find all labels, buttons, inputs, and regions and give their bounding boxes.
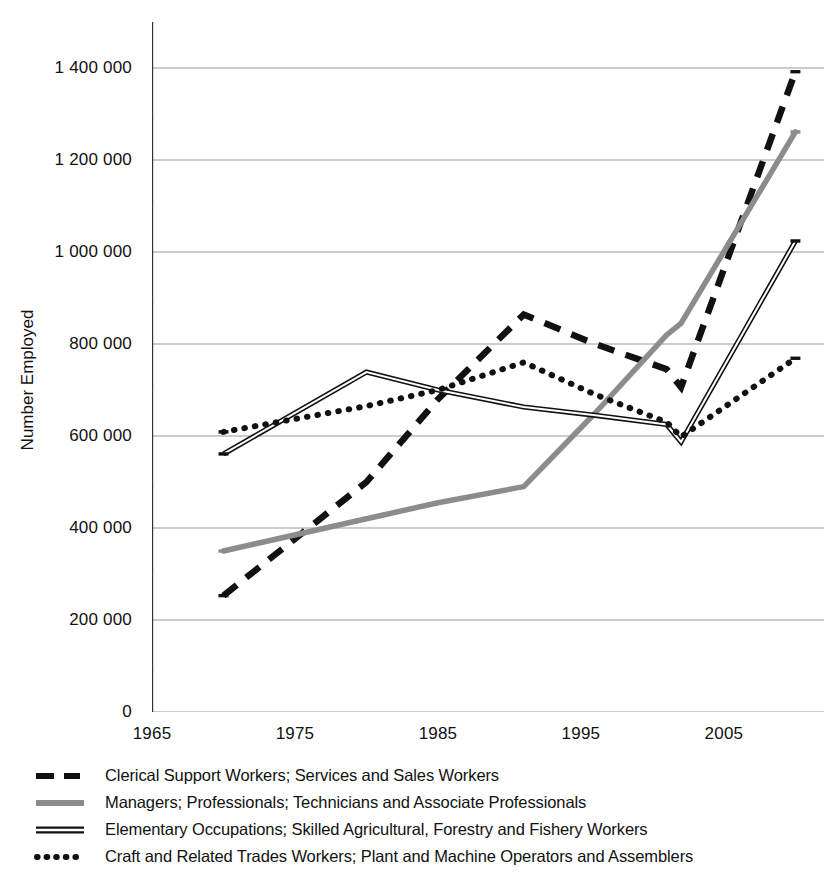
legend-item-label: Elementary Occupations; Skilled Agricult… bbox=[105, 820, 648, 839]
x-axis-tick-label: 1995 bbox=[562, 724, 601, 744]
y-axis-tick-label: 1 000 000 bbox=[55, 242, 132, 262]
legend-item[interactable]: Clerical Support Workers; Services and S… bbox=[0, 762, 838, 789]
y-axis-tick-label: 0 bbox=[122, 702, 132, 722]
y-axis-tick-label: 400 000 bbox=[69, 518, 132, 538]
series-line-1 bbox=[223, 132, 795, 551]
dotted-line-key bbox=[34, 849, 98, 865]
y-axis-tick-label: 1 400 000 bbox=[55, 58, 132, 78]
x-axis-tick-label: 2005 bbox=[705, 724, 744, 744]
legend-item[interactable]: Elementary Occupations; Skilled Agricult… bbox=[0, 816, 838, 843]
x-axis-tick-label: 1975 bbox=[276, 724, 315, 744]
y-axis-tick-label: 800 000 bbox=[69, 334, 132, 354]
series-line-3 bbox=[223, 358, 795, 437]
y-axis-tick-label: 600 000 bbox=[69, 426, 132, 446]
y-axis-tick-label: 200 000 bbox=[69, 610, 132, 630]
y-axis-tick-label: 1 200 000 bbox=[55, 150, 132, 170]
employment-line-chart-figure: Number Employed 0200 000400 000600 00080… bbox=[0, 0, 838, 875]
legend-item-label: Clerical Support Workers; Services and S… bbox=[105, 766, 499, 785]
legend-item[interactable]: Craft and Related Trades Workers; Plant … bbox=[0, 843, 838, 870]
x-axis: 19651975198519952005 bbox=[0, 722, 838, 752]
gray-solid-line-key bbox=[34, 795, 98, 811]
legend-item-label: Managers; Professionals; Technicians and… bbox=[105, 793, 586, 812]
series-line-0 bbox=[223, 72, 795, 596]
y-axis-title: Number Employed bbox=[18, 290, 38, 470]
x-axis-tick-label: 1965 bbox=[133, 724, 172, 744]
chart-legend: Clerical Support Workers; Services and S… bbox=[0, 762, 838, 870]
legend-item[interactable]: Managers; Professionals; Technicians and… bbox=[0, 789, 838, 816]
double-line-key bbox=[34, 822, 98, 838]
x-axis-tick-label: 1985 bbox=[419, 724, 458, 744]
plot-area bbox=[152, 22, 824, 712]
legend-item-label: Craft and Related Trades Workers; Plant … bbox=[105, 847, 693, 866]
chart-canvas bbox=[152, 22, 824, 712]
dashed-line-key bbox=[34, 768, 98, 784]
